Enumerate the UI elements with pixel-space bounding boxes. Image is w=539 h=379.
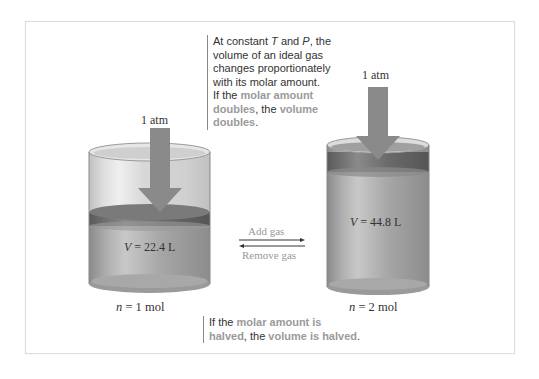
left-volume-label: V = 22.4 L <box>124 240 175 255</box>
note-text: , the <box>244 330 268 342</box>
reversible-arrows-icon <box>239 238 305 248</box>
highlight-text: molar amount <box>241 89 314 101</box>
moles-value: = 1 mol <box>122 300 164 314</box>
note-line: with its molar amount. <box>213 76 331 90</box>
note-text: , the <box>310 35 331 47</box>
left-cylinder <box>89 128 210 293</box>
temperature-symbol: T <box>271 35 278 47</box>
note-text: At constant <box>213 35 271 47</box>
right-cylinder <box>327 87 429 295</box>
note-text: and <box>278 35 302 47</box>
note-line: volume of an ideal gas <box>213 49 331 63</box>
add-gas-label: Add gas <box>248 225 284 237</box>
highlight-text: volume is halved <box>268 330 357 342</box>
volume-value: = 44.8 L <box>357 215 401 229</box>
top-annotation: At constant T and P, the volume of an id… <box>207 35 331 130</box>
note-text: , the <box>255 103 279 115</box>
remove-gas-label: Remove gas <box>242 249 296 261</box>
highlight-text: molar amount is <box>237 316 322 328</box>
note-text: . <box>255 116 258 128</box>
note-line: changes proportionately <box>213 62 331 76</box>
moles-value: = 2 mol <box>355 300 397 314</box>
highlight-text: doubles <box>213 116 255 128</box>
note-text: If the <box>209 316 237 328</box>
right-moles-label: n = 2 mol <box>349 300 397 315</box>
right-volume-label: V = 44.8 L <box>350 215 401 230</box>
left-pressure-label: 1 atm <box>141 113 168 128</box>
bottom-annotation: If the molar amount is halved, the volum… <box>203 316 360 343</box>
highlight-text: doubles <box>213 103 255 115</box>
highlight-text: halved <box>209 330 244 342</box>
volume-value: = 22.4 L <box>131 240 175 254</box>
left-moles-label: n = 1 mol <box>116 300 164 315</box>
right-pressure-label: 1 atm <box>362 68 389 83</box>
note-text: . <box>357 330 360 342</box>
pressure-symbol: P <box>302 35 309 47</box>
note-text: If the <box>213 89 241 101</box>
highlight-text: volume <box>280 103 319 115</box>
